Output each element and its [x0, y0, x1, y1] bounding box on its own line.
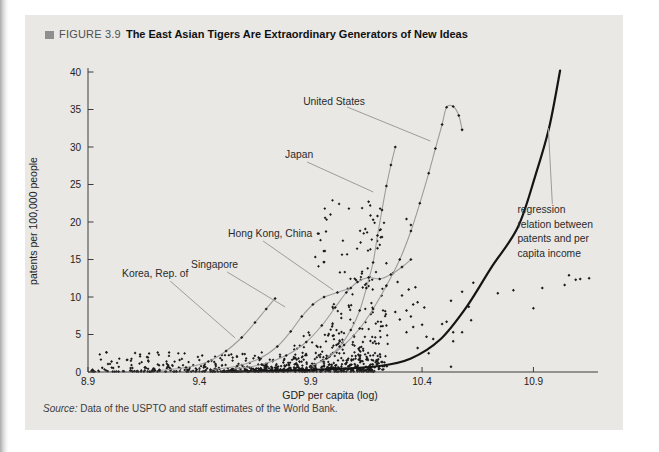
regression-label-line: relation between	[517, 219, 593, 230]
figure-marker-icon	[45, 31, 54, 39]
figure-number: FIGURE 3.9	[59, 28, 121, 40]
figure-panel: 8.99.49.910.410.90510152025303540GDP per…	[25, 15, 623, 430]
svg-text:5: 5	[75, 329, 81, 340]
regression-label-line: capita income	[517, 248, 581, 259]
trajectory-united-states	[329, 105, 463, 357]
axis-tick-labels: 8.99.49.910.410.90510152025303540	[70, 67, 544, 388]
svg-text:9.9: 9.9	[304, 376, 318, 387]
regression-curve	[222, 71, 560, 372]
regression-annotation: regressionrelation betweenpatents and pe…	[517, 128, 593, 258]
x-axis-title: GDP per capita (log)	[282, 389, 378, 401]
svg-text:9.4: 9.4	[192, 376, 206, 387]
page-background: 8.99.49.910.410.90510152025303540GDP per…	[0, 0, 659, 452]
svg-text:10.4: 10.4	[412, 376, 432, 387]
source-prefix: Source:	[43, 403, 77, 414]
annotation-label: Korea, Rep. of	[122, 268, 189, 279]
page-edge-shadow	[0, 0, 9, 452]
svg-text:35: 35	[70, 104, 82, 115]
svg-text:40: 40	[70, 67, 82, 78]
chart-canvas: 8.99.49.910.410.90510152025303540GDP per…	[25, 15, 623, 430]
scatter-cloud-points	[90, 199, 389, 373]
y-axis-title: patents per 100,000 people	[27, 157, 39, 285]
regression-label-line: patents and per	[517, 233, 589, 244]
svg-text:20: 20	[70, 217, 82, 228]
annotation-label: Hong Kong, China	[228, 228, 312, 239]
trajectory-points-japan	[309, 145, 397, 367]
svg-text:25: 25	[70, 179, 82, 190]
country-annotations: United StatesJapanHong Kong, ChinaSingap…	[122, 96, 430, 338]
trajectory-points-united-states	[327, 105, 464, 359]
regression-label-line: regression	[517, 204, 565, 215]
figure-header: FIGURE 3.9The East Asian Tigers Are Extr…	[45, 28, 468, 40]
svg-text:10.9: 10.9	[524, 376, 544, 387]
annotation-label: United States	[303, 96, 365, 107]
annotation-label: Singapore	[191, 259, 238, 270]
svg-text:15: 15	[70, 254, 82, 265]
svg-text:30: 30	[70, 142, 82, 153]
trajectory-japan	[311, 147, 396, 366]
svg-text:8.9: 8.9	[81, 376, 95, 387]
svg-text:10: 10	[70, 292, 82, 303]
figure-title: The East Asian Tigers Are Extraordinary …	[126, 28, 468, 40]
svg-text:0: 0	[75, 367, 81, 378]
annotation-label: Japan	[285, 149, 313, 160]
source-text: Data of the USPTO and staff estimates of…	[77, 403, 337, 414]
source-note: Source: Data of the USPTO and staff esti…	[43, 403, 338, 414]
